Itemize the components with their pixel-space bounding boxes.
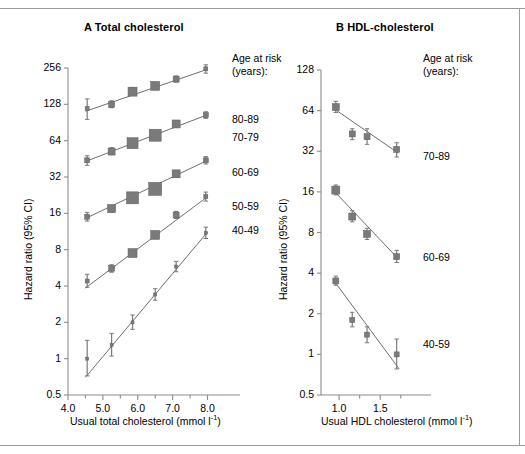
series-label-b-70-89: 70-89	[423, 150, 450, 162]
legend-heading-line2: (years):	[423, 65, 473, 78]
x-axis-title-tail: )	[217, 415, 221, 427]
figure-border-bottom	[0, 445, 525, 446]
y-tick-label-a-32: 32	[0, 170, 61, 182]
y-tick-label-b-8: 8	[0, 226, 314, 238]
y-tick-label-b-2: 2	[0, 307, 314, 319]
x-axis-title-main: Usual HDL cholesterol (mmol l	[321, 415, 462, 427]
y-tick-label-b-0.5: 0.5	[0, 388, 314, 400]
panel-b-title: B HDL-cholesterol	[336, 21, 434, 33]
figure-container: A Total cholesterol B HDL-cholesterol 0.…	[0, 0, 525, 454]
legend-heading-b: Age at risk(years):	[423, 52, 473, 78]
figure-border-right	[519, 8, 520, 446]
x-axis-title-a: Usual total cholesterol (mmol l-1)	[70, 413, 221, 427]
x-axis-title-main: Usual total cholesterol (mmol l	[70, 415, 211, 427]
y-tick-label-b-1: 1	[0, 347, 314, 359]
y-axis-title-b: Hazard ratio (95% CI)	[277, 198, 289, 300]
y-tick-label-b-4: 4	[0, 266, 314, 278]
x-axis-title-tail: )	[469, 415, 473, 427]
series-label-a-60-69: 60-69	[232, 166, 259, 178]
x-axis-title-b: Usual HDL cholesterol (mmol l-1)	[321, 413, 473, 427]
legend-heading-line1: Age at risk	[423, 52, 473, 65]
y-tick-label-b-16: 16	[0, 185, 314, 197]
series-label-a-50-59: 50-59	[232, 200, 259, 212]
series-label-b-60-69: 60-69	[423, 251, 450, 263]
series-label-a-70-79: 70-79	[232, 131, 259, 143]
y-axis-title-a: Hazard ratio (95% CI)	[22, 198, 34, 300]
figure-border-top	[0, 8, 525, 9]
panel-a-title: A Total cholesterol	[84, 21, 184, 33]
y-tick-label-b-128: 128	[0, 63, 314, 75]
y-tick-label-b-64: 64	[0, 104, 314, 116]
y-tick-label-b-32: 32	[0, 144, 314, 156]
series-label-b-40-59: 40-59	[423, 338, 450, 350]
